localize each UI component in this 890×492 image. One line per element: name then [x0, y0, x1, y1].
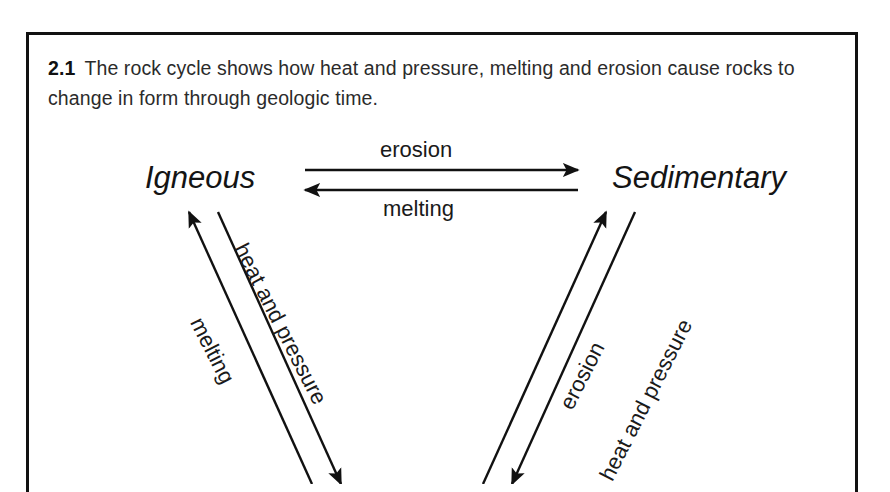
figure-caption: 2.1The rock cycle shows how heat and pre…: [48, 53, 816, 113]
caption-text: The rock cycle shows how heat and pressu…: [48, 57, 795, 109]
node-label-igneous: Igneous: [145, 160, 255, 196]
edge-label-melting-top: melting: [383, 196, 454, 222]
caption-number: 2.1: [48, 57, 75, 79]
edge-label-erosion-top: erosion: [380, 137, 452, 163]
node-label-sedimentary: Sedimentary: [612, 160, 786, 196]
